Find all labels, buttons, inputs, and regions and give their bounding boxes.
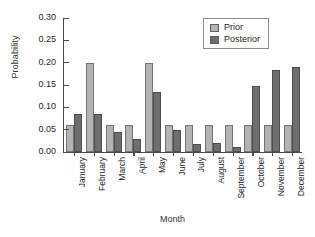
y-tick-label: 0.25 xyxy=(38,34,56,44)
y-tick-label: 0.10 xyxy=(38,101,56,111)
x-tick-label: October xyxy=(256,127,266,157)
legend-label-posterior: Posterior xyxy=(224,35,260,44)
x-tick-label: May xyxy=(157,141,167,157)
legend-swatch-posterior-icon xyxy=(210,36,219,44)
x-tick-label: July xyxy=(196,142,206,157)
x-tick-label: August xyxy=(216,131,226,157)
y-tick-label: 0.30 xyxy=(38,12,56,22)
y-tick-label: 0.15 xyxy=(38,79,56,89)
x-tick-label: September xyxy=(236,115,246,157)
y-tick-mark xyxy=(64,18,69,19)
x-tick-mark xyxy=(173,152,174,156)
y-tick-mark xyxy=(64,40,69,41)
bar-prior-may xyxy=(145,63,153,152)
y-tick-mark xyxy=(64,107,69,108)
bar-group xyxy=(123,18,143,152)
x-tick-mark xyxy=(193,152,194,156)
x-tick-mark xyxy=(233,152,234,156)
y-tick-mark xyxy=(64,85,69,86)
x-tick-label: April xyxy=(137,140,147,157)
x-tick-mark xyxy=(272,152,273,156)
x-tick-label: March xyxy=(117,133,127,157)
legend: Prior Posterior xyxy=(203,18,269,49)
legend-label-prior: Prior xyxy=(224,23,243,32)
bar-chart: Probability 0.000.050.100.150.200.250.30… xyxy=(0,0,315,237)
x-tick-mark xyxy=(74,152,75,156)
y-tick-label: 0.05 xyxy=(38,124,56,134)
x-tick-mark xyxy=(114,152,115,156)
y-tick-label: 0.00 xyxy=(38,146,56,156)
x-tick-label: November xyxy=(276,118,286,157)
y-tick-mark xyxy=(64,129,69,130)
x-tick-mark xyxy=(292,152,293,156)
x-axis-title: Month xyxy=(40,214,305,224)
y-tick-mark xyxy=(64,62,69,63)
bar-group xyxy=(163,18,183,152)
legend-item-prior: Prior xyxy=(210,23,260,32)
bar-group xyxy=(183,18,203,152)
legend-swatch-prior-icon xyxy=(210,24,219,32)
x-tick-label: February xyxy=(97,123,107,157)
x-tick-mark xyxy=(133,152,134,156)
legend-item-posterior: Posterior xyxy=(210,35,260,44)
y-tick-mark xyxy=(64,152,69,153)
x-tick-label: December xyxy=(296,118,306,157)
x-tick-mark xyxy=(153,152,154,156)
y-axis-title: Probability xyxy=(10,12,20,102)
bar-group xyxy=(143,18,163,152)
y-tick-label: 0.20 xyxy=(38,57,56,67)
x-tick-mark xyxy=(94,152,95,156)
x-tick-label: January xyxy=(77,127,87,157)
x-tick-mark xyxy=(213,152,214,156)
x-tick-label: June xyxy=(177,139,187,157)
x-tick-mark xyxy=(252,152,253,156)
